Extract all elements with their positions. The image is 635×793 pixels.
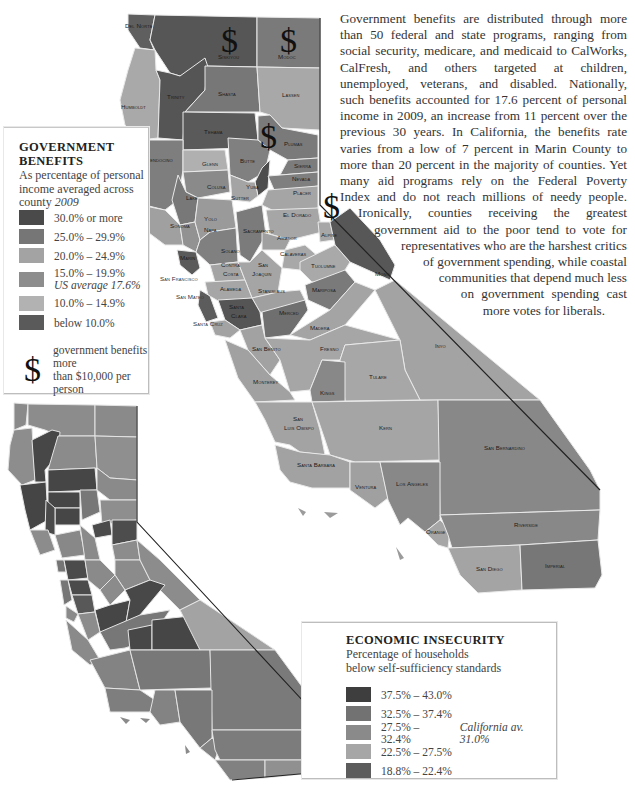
svg-text:Sonoma: Sonoma [170, 222, 190, 229]
svg-text:Mendocino: Mendocino [145, 156, 173, 163]
svg-text:Santa Barbara: Santa Barbara [297, 461, 335, 468]
svg-text:Humboldt: Humboldt [121, 103, 146, 110]
svg-text:San Francisco: San Francisco [160, 275, 198, 282]
benefits-legend-item: 15.0% – 19.9% US average 17.6% [19, 265, 141, 293]
svg-text:Amador: Amador [277, 234, 297, 241]
benefits-legend-item: below 10.0% [19, 313, 141, 332]
benefits-legend: GOVERNMENT BENEFITS As percentage of per… [4, 127, 149, 394]
svg-text:Lassen: Lassen [282, 91, 300, 98]
svg-text:Solano: Solano [221, 247, 240, 254]
svg-text:Riverside: Riverside [514, 521, 538, 528]
svg-text:Los Angeles: Los Angeles [396, 480, 428, 487]
svg-text:Tuolumne: Tuolumne [311, 262, 336, 269]
paragraph-line: government aid to the poor tend to vote … [374, 222, 627, 238]
legend-swatch [19, 272, 44, 287]
benefits-legend-item: 30.0% or more [19, 208, 141, 227]
paragraph-line: communities that depend much less [340, 270, 627, 286]
paragraph-line: many aid programs rely on the Federal Po… [340, 173, 627, 189]
svg-text:Shasta: Shasta [218, 90, 236, 97]
svg-text:Napa: Napa [204, 226, 217, 233]
svg-text:Tehama: Tehama [204, 128, 223, 135]
svg-text:San Benito: San Benito [252, 345, 281, 352]
benefits-legend-item: 25.0% – 29.9% [19, 227, 141, 246]
county-del-norte [128, 14, 155, 50]
svg-text:Merced: Merced [279, 309, 299, 316]
svg-text:Stanislaus: Stanislaus [258, 287, 285, 294]
paragraph-line: income in 2009, an increase from 11 perc… [340, 108, 627, 124]
svg-text:Mariposa: Mariposa [312, 286, 336, 293]
svg-text:Luis Obispo: Luis Obispo [284, 424, 314, 431]
channel-island [298, 508, 306, 516]
svg-text:Alameda: Alameda [220, 285, 242, 292]
benefits-legend-title: GOVERNMENT BENEFITS [19, 140, 144, 168]
svg-text:Sutter: Sutter [231, 194, 249, 201]
paragraph-line: varies from a low of 7 percent in Marin … [340, 141, 627, 157]
svg-text:Lake: Lake [186, 194, 198, 201]
paragraph-line: CalFresh, and others targeted at childre… [340, 60, 627, 76]
benefits-legend-item: 20.0% – 24.9% [19, 246, 141, 265]
svg-text:San: San [258, 261, 268, 268]
svg-text:Alpine: Alpine [321, 231, 338, 238]
benefits-legend-subtitle: As percentage of personal income average… [19, 169, 144, 210]
paragraph-line: social security, medicare, and medicaid … [340, 43, 627, 59]
svg-text:San Diego: San Diego [476, 565, 503, 572]
paragraph-line: representatives who are the harshest cri… [340, 238, 627, 254]
insecurity-legend-item: 18.8% – 22.4% [346, 761, 556, 780]
svg-text:Calaveras: Calaveras [280, 250, 306, 257]
legend-swatch [346, 687, 371, 702]
svg-text:Kern: Kern [379, 424, 392, 431]
paragraph-line: more than 20 percent in the majority of … [340, 157, 627, 173]
legend-swatch [19, 296, 44, 311]
svg-text:Ventura: Ventura [355, 483, 377, 490]
svg-text:Joaquin: Joaquin [252, 270, 272, 277]
county-kern [312, 400, 440, 462]
svg-text:Madera: Madera [310, 324, 330, 331]
legend-swatch [19, 229, 44, 244]
insecurity-legend-item: 27.5% – 32.4% California av. 31.0% [346, 723, 556, 742]
insecurity-legend-subtitle: Percentage of households below self-suff… [346, 648, 505, 675]
paragraph-line: such benefits accounted for 17.6 percent… [340, 92, 627, 108]
paragraph-line: Ironically, counties receiving the great… [358, 205, 627, 221]
svg-text:Monterey: Monterey [253, 378, 279, 385]
description-paragraph: Government benefits are distributed thro… [340, 11, 627, 319]
svg-text:Yuba: Yuba [246, 183, 259, 190]
benefits-legend-item: 10.0% – 14.9% [19, 293, 141, 313]
svg-text:Sacramento: Sacramento [243, 227, 274, 234]
us-average-note: US average 17.6% [54, 279, 141, 291]
dollar-marker-alpine: $ [323, 188, 340, 225]
svg-text:Contra: Contra [221, 261, 240, 268]
svg-text:Costa: Costa [223, 270, 239, 277]
paragraph-line: of government spending, while coastal [340, 254, 627, 270]
paragraph-line: more votes for liberals. [340, 303, 627, 319]
svg-text:San Bernardino: San Bernardino [484, 444, 525, 451]
legend-swatch [19, 248, 44, 263]
svg-text:Del Norte: Del Norte [125, 22, 153, 29]
insecurity-legend-item: 22.5% – 27.5% [346, 742, 556, 761]
insecurity-legend: ECONOMIC INSECURITY Percentage of househ… [302, 622, 557, 779]
paragraph-line: than 50 federal and state programs, rang… [340, 27, 627, 43]
california-average-note: California av. 31.0% [460, 721, 556, 745]
svg-text:Trinity: Trinity [167, 93, 185, 100]
svg-text:Modoc: Modoc [278, 53, 296, 60]
legend-swatch [19, 315, 44, 330]
svg-text:Siskiyou: Siskiyou [218, 53, 239, 60]
svg-text:Inyo: Inyo [435, 342, 446, 349]
svg-text:San: San [293, 415, 303, 422]
svg-text:San Mateo: San Mateo [176, 293, 204, 300]
county-los-angeles [380, 462, 440, 532]
svg-text:Sierra: Sierra [294, 162, 311, 169]
svg-text:Plumas: Plumas [284, 140, 303, 147]
legend-swatch [346, 706, 371, 721]
svg-text:Imperial: Imperial [545, 562, 566, 569]
svg-text:Santa: Santa [229, 303, 244, 310]
legend-swatch [346, 725, 371, 740]
insecurity-legend-title: ECONOMIC INSECURITY [346, 633, 505, 647]
svg-text:Butte: Butte [240, 157, 255, 164]
svg-text:Nevada: Nevada [292, 175, 311, 182]
paragraph-line: on government spending cast [340, 286, 627, 302]
svg-text:Tulare: Tulare [369, 373, 387, 380]
svg-text:Glenn: Glenn [202, 160, 218, 167]
legend-swatch [346, 744, 371, 759]
channel-island [396, 547, 404, 560]
legend-swatch [346, 763, 371, 778]
